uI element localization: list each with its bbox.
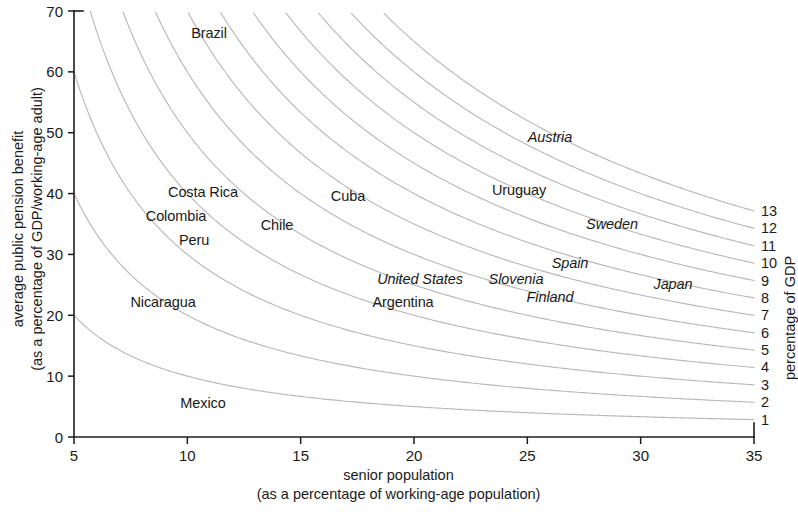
country-label-argentina: Argentina [372,294,433,310]
curve-level-label-12: 12 [761,220,777,236]
country-label-cuba: Cuba [331,188,365,204]
y-axis-title-line2: (as a percentage of GDP/working-age adul… [28,19,47,439]
curve-level-label-5: 5 [761,342,769,358]
curve-level-label-2: 2 [761,394,769,410]
axis-tick-labels: 0102030405060705101520253035 [46,3,762,465]
right-axis-title-text: percentage of GDP [782,218,798,418]
right-axis-title: percentage of GDP [782,218,798,418]
x-tick-label-15: 15 [292,447,309,464]
country-label-japan: Japan [653,276,692,292]
y-tick-label-50: 50 [46,124,63,141]
country-label-brazil: Brazil [191,25,227,41]
x-tick-label-35: 35 [746,447,763,464]
country-label-austria: Austria [528,129,572,145]
y-axis-title-line1: average public pension benefit [9,19,28,439]
country-label-finland: Finland [527,289,574,305]
x-tick-label-20: 20 [406,447,423,464]
iso-gdp-curve-9 [254,13,754,280]
chart-axes [68,11,754,444]
country-label-slovenia: Slovenia [489,271,544,287]
y-tick-label-20: 20 [46,307,63,324]
country-label-spain: Spain [552,255,589,271]
y-tick-label-10: 10 [46,368,63,385]
curve-level-label-3: 3 [761,377,769,393]
y-tick-label-70: 70 [46,3,63,20]
iso-gdp-curve-3 [74,72,754,385]
curve-level-label-10: 10 [761,255,777,271]
y-axis-title: average public pension benefit (as a per… [9,19,47,439]
curve-level-label-6: 6 [761,325,769,341]
country-label-costa-rica: Costa Rica [168,184,238,200]
x-tick-label-5: 5 [70,447,78,464]
iso-gdp-curve-12 [351,13,754,228]
y-tick-label-30: 30 [46,246,63,263]
x-axis-title-line1: senior population [0,466,797,485]
iso-gdp-curve-8 [221,13,754,298]
curve-level-label-4: 4 [761,359,769,375]
iso-gdp-curve-7 [188,13,754,316]
curve-level-label-9: 9 [761,273,769,289]
iso-gdp-curve-1 [74,315,754,419]
curve-level-label-1: 1 [761,412,769,428]
x-tick-label-30: 30 [632,447,649,464]
curve-level-label-8: 8 [761,290,769,306]
iso-gdp-curve-10 [286,13,754,263]
country-label-nicaragua: Nicaragua [130,294,195,310]
curve-level-label-13: 13 [761,203,777,219]
x-tick-label-10: 10 [179,447,196,464]
y-tick-label-0: 0 [55,429,63,446]
country-label-uruguay: Uruguay [492,182,546,198]
x-tick-label-25: 25 [519,447,536,464]
x-axis-title: senior population (as a percentage of wo… [0,466,797,504]
iso-gdp-curve-13 [384,13,754,210]
y-tick-label-40: 40 [46,185,63,202]
country-label-sweden: Sweden [586,216,638,232]
x-axis-title-line2: (as a percentage of working-age populati… [0,485,797,504]
curve-level-label-11: 11 [761,238,776,254]
country-label-peru: Peru [179,232,209,248]
y-tick-label-60: 60 [46,63,63,80]
curve-level-labels: 12345678910111213 [761,203,777,428]
curve-level-label-7: 7 [761,307,769,323]
country-label-colombia: Colombia [146,208,206,224]
country-label-united-states: United States [377,271,463,287]
country-label-chile: Chile [261,217,294,233]
country-label-mexico: Mexico [180,395,225,411]
